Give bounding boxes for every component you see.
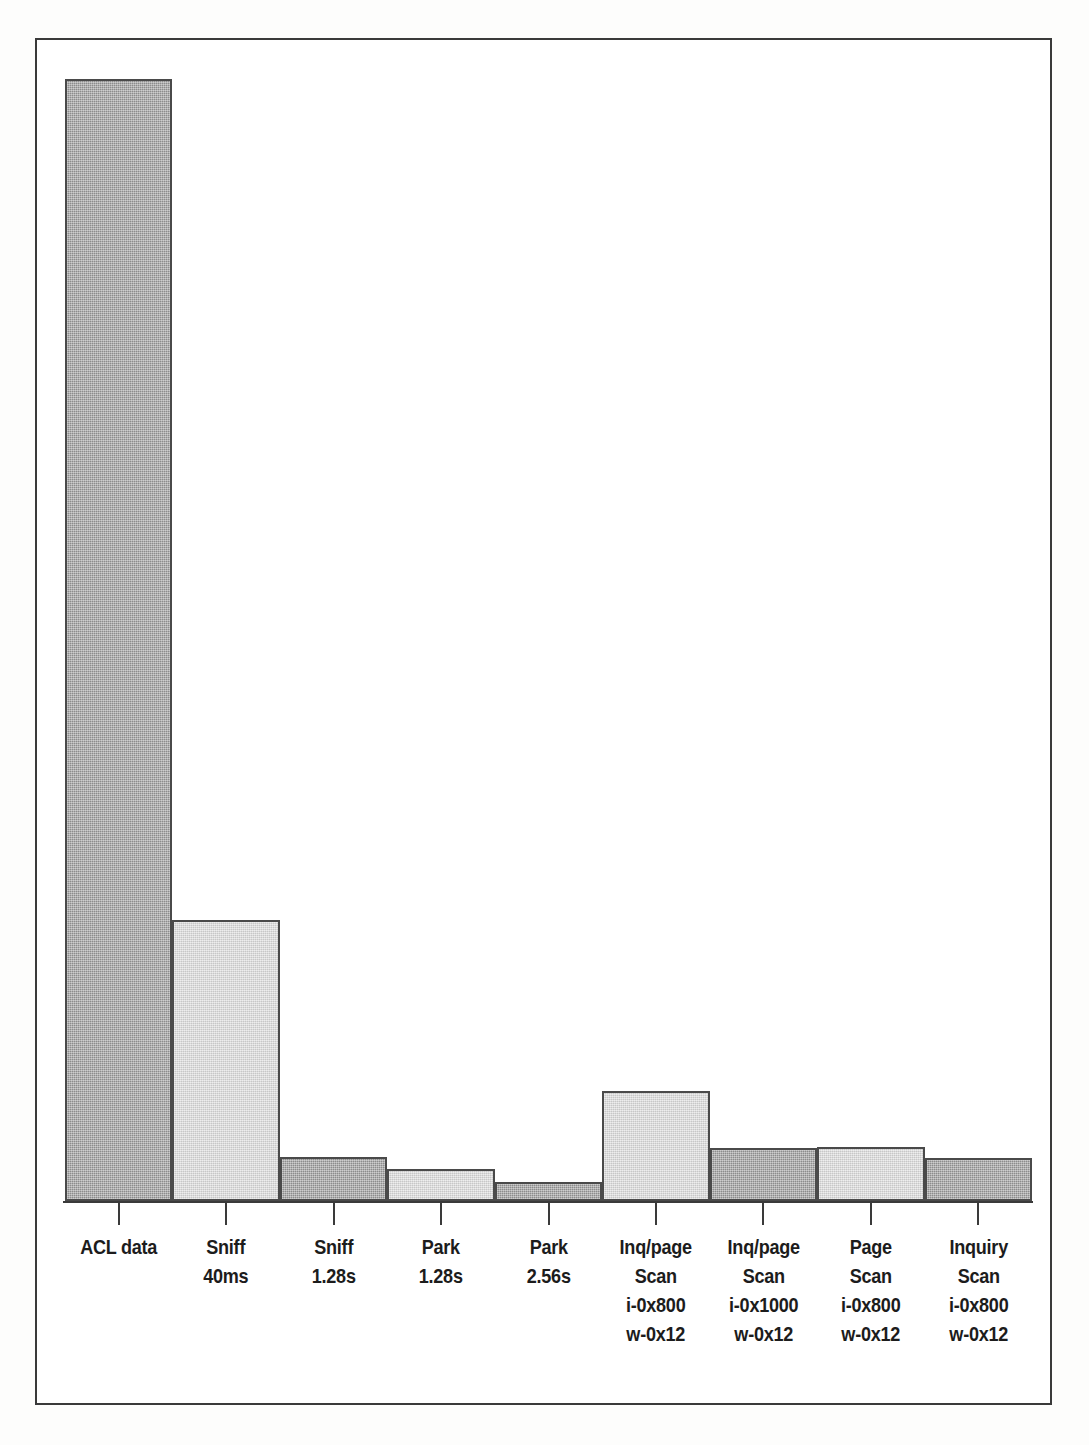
bar <box>495 1182 602 1201</box>
x-axis-tick-label: InquiryScani-0x800w-0x12 <box>932 1232 1024 1348</box>
bar <box>280 1157 387 1201</box>
bar <box>710 1148 817 1201</box>
x-axis-tick-label-line: i-0x800 <box>825 1290 917 1319</box>
x-axis-tick-label-line: Scan <box>610 1261 702 1290</box>
x-axis-tick-label: ACL data <box>73 1232 165 1261</box>
x-axis-tick-label-line: Scan <box>717 1261 809 1290</box>
x-axis-tick-label-line: Inq/page <box>610 1232 702 1261</box>
x-axis-tick-label-line: Inq/page <box>717 1232 809 1261</box>
bar <box>602 1091 709 1201</box>
x-axis-tick <box>977 1203 979 1225</box>
x-axis-tick-label-line: Inquiry <box>932 1232 1024 1261</box>
bar <box>172 920 279 1201</box>
x-axis-tick-label-line: Park <box>502 1232 594 1261</box>
x-axis-tick-label-line: w-0x12 <box>932 1319 1024 1348</box>
x-axis-tick-label-line: 1.28s <box>395 1261 487 1290</box>
x-axis-tick-label-line: Sniff <box>287 1232 379 1261</box>
x-axis-tick <box>870 1203 872 1225</box>
x-axis-tick <box>440 1203 442 1225</box>
x-axis-tick <box>655 1203 657 1225</box>
x-axis-tick-label: Park1.28s <box>395 1232 487 1290</box>
x-axis-tick <box>548 1203 550 1225</box>
x-axis-tick-label: Park2.56s <box>502 1232 594 1290</box>
x-axis-tick <box>225 1203 227 1225</box>
x-axis-tick-label-line: 2.56s <box>502 1261 594 1290</box>
x-axis-tick-label-line: ACL data <box>73 1232 165 1261</box>
x-axis-tick-label-line: Park <box>395 1232 487 1261</box>
plot-area: ACL dataSniff40msSniff1.28sPark1.28sPark… <box>37 40 1054 1407</box>
x-axis-tick-label-line: 40ms <box>180 1261 272 1290</box>
x-axis-tick-label-line: Scan <box>825 1261 917 1290</box>
x-axis-tick-label-line: i-0x800 <box>932 1290 1024 1319</box>
x-axis-tick <box>118 1203 120 1225</box>
bar <box>387 1169 494 1201</box>
x-axis-tick-label-line: i-0x800 <box>610 1290 702 1319</box>
bar <box>65 79 172 1201</box>
x-axis-tick-label: Sniff40ms <box>180 1232 272 1290</box>
x-axis-tick <box>333 1203 335 1225</box>
x-axis-tick-label: Sniff1.28s <box>287 1232 379 1290</box>
x-axis-tick-label-line: i-0x1000 <box>717 1290 809 1319</box>
x-axis-tick <box>762 1203 764 1225</box>
x-axis-tick-label-line: w-0x12 <box>825 1319 917 1348</box>
bar <box>925 1158 1032 1201</box>
x-axis-tick-label-line: 1.28s <box>287 1261 379 1290</box>
x-axis-tick-label-line: Page <box>825 1232 917 1261</box>
chart-frame: ACL dataSniff40msSniff1.28sPark1.28sPark… <box>35 38 1052 1405</box>
x-axis-tick-label: PageScani-0x800w-0x12 <box>825 1232 917 1348</box>
x-axis-tick-label: Inq/pageScani-0x800w-0x12 <box>610 1232 702 1348</box>
bar <box>817 1147 924 1201</box>
x-axis-tick-label-line: Sniff <box>180 1232 272 1261</box>
x-axis-tick-label-line: w-0x12 <box>610 1319 702 1348</box>
x-axis-tick-label-line: Scan <box>932 1261 1024 1290</box>
x-axis-tick-label: Inq/pageScani-0x1000w-0x12 <box>717 1232 809 1348</box>
x-axis-tick-label-line: w-0x12 <box>717 1319 809 1348</box>
